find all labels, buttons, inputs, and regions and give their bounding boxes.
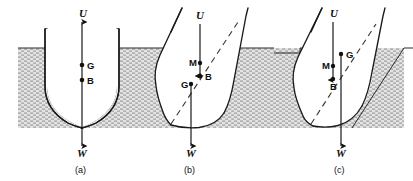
figure-root: U G B W (a) (0, 0, 413, 181)
label-g-c: G (346, 49, 353, 60)
point-b-a (80, 78, 85, 83)
caption-a: (a) (75, 165, 86, 175)
caption-c: (c) (334, 165, 345, 175)
ship-stability-figure: U G B W (a) (0, 0, 413, 181)
label-b-a: B (87, 75, 94, 86)
point-g-c (339, 52, 343, 56)
caption-b: (b) (184, 165, 195, 175)
label-g-b: G (181, 79, 188, 90)
label-b-c: B (330, 81, 337, 92)
point-g-a (80, 63, 85, 68)
label-g-a: G (87, 60, 94, 71)
label-w-a: W (77, 147, 88, 159)
point-b-b (198, 74, 202, 78)
label-b-b: B (205, 71, 212, 82)
label-u-b: U (196, 9, 205, 21)
point-m-b (198, 61, 202, 65)
label-m-b: M (189, 57, 197, 68)
label-w-c: W (336, 147, 347, 159)
label-u-a: U (79, 7, 88, 19)
label-u-c: U (330, 7, 339, 19)
label-m-c: M (322, 60, 330, 71)
point-g-b (189, 82, 193, 86)
label-w-b: W (186, 147, 197, 159)
point-m-c (331, 64, 335, 68)
